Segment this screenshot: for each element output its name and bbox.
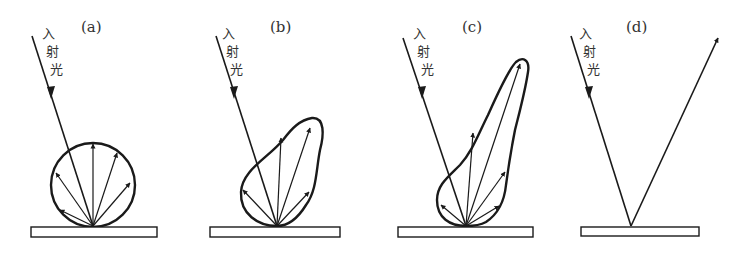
svg-text:入: 入 [413,26,426,41]
surface-plate-b [210,227,340,237]
reflected-rays-c [441,64,520,226]
svg-text:光: 光 [50,62,63,77]
svg-text:射: 射 [583,44,596,59]
surface-plate-d [581,227,699,236]
svg-text:入: 入 [579,26,592,41]
svg-text:入: 入 [42,26,55,41]
incident-light-label-a: 入 射 光 [42,26,63,77]
incident-ray-b [216,36,277,226]
panel-b: (b) 入 射 光 [210,18,340,237]
incident-arrow-d [585,86,593,99]
incident-ray-d [571,36,631,226]
svg-text:光: 光 [230,62,243,77]
incident-light-label-c: 入 射 光 [413,26,434,77]
reflected-rays-a [56,144,130,226]
panel-a: (a) 入 射 光 [31,18,157,237]
incident-arrow-c [418,86,426,99]
reflected-ray-d [631,38,718,226]
panel-c: (c) 入 射 光 [398,18,533,237]
incident-light-label-b: 入 射 光 [222,26,243,77]
panel-b-label: (b) [270,18,291,36]
mixed-lobe-b [241,118,323,226]
svg-text:射: 射 [417,44,430,59]
svg-text:光: 光 [421,62,434,77]
panel-a-label: (a) [81,18,102,36]
incident-arrow-b [230,86,238,99]
incident-arrow-a [47,86,55,99]
svg-text:光: 光 [587,62,600,77]
incident-ray-c [403,38,466,226]
reflection-diagram: (a) 入 射 光 (b) 入 射 光 [0,0,746,255]
svg-text:射: 射 [226,44,239,59]
surface-plate-c [398,227,533,237]
specular-lobe-c [437,59,528,226]
reflected-rays-b [243,128,310,226]
panel-d-label: (d) [626,18,647,36]
panel-c-label: (c) [462,18,482,36]
svg-text:射: 射 [46,44,59,59]
surface-plate-a [31,227,157,237]
panel-d: (d) 入 射 光 [571,18,718,236]
svg-text:入: 入 [222,26,235,41]
